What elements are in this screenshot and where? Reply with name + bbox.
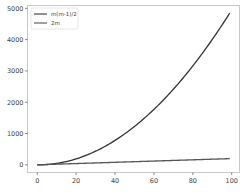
x-tick-label: 80 [189, 177, 197, 185]
y-tick-label: 3000 [7, 67, 24, 75]
y-tick-label: 5000 [7, 5, 24, 13]
x-tick-label: 20 [72, 177, 80, 185]
y-tick-label: 2000 [7, 99, 24, 107]
y-tick-label: 4000 [7, 36, 24, 44]
plot-frame [28, 6, 240, 173]
x-tick-label: 60 [150, 177, 158, 185]
x-axis: 020406080100 [35, 173, 238, 185]
series-line-0 [37, 13, 230, 165]
y-tick-label: 0 [19, 161, 23, 169]
series-lines [37, 13, 230, 165]
legend-label-0: m(m-1)/2 [51, 11, 77, 17]
legend: m(m-1)/2 2m [31, 8, 78, 29]
y-tick-label: 1000 [7, 130, 24, 138]
x-tick-label: 40 [111, 177, 119, 185]
line-chart: 010002000300040005000 020406080100 m(m-1… [0, 0, 249, 192]
x-tick-label: 100 [226, 177, 238, 185]
x-tick-label: 0 [35, 177, 39, 185]
y-axis: 010002000300040005000 [7, 5, 28, 170]
legend-label-1: 2m [51, 20, 60, 26]
